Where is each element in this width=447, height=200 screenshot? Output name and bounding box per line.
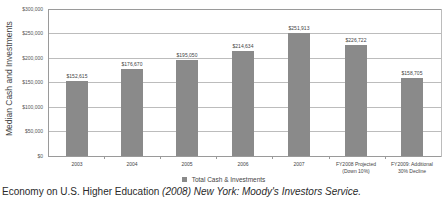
y-tick-300000: $300,000 <box>0 6 43 12</box>
bar-value-label: $176,670 <box>102 61 162 67</box>
bar-value-label: $226,722 <box>326 37 386 43</box>
bar-value-label: $158,705 <box>382 70 442 76</box>
x-category-label: 2004 <box>102 161 162 168</box>
bar-2003 <box>66 81 88 156</box>
bar-2007 <box>288 33 310 156</box>
bar-value-label: $152,615 <box>47 73 107 79</box>
x-axis <box>48 156 441 157</box>
legend-swatch-icon <box>182 177 187 182</box>
x-category-label: 2006 <box>213 161 273 168</box>
x-tick <box>104 156 105 159</box>
y-tick-0: $0 <box>0 153 43 159</box>
legend-label: Total Cash & Investments <box>192 176 266 183</box>
x-category-label: 2003 <box>47 161 107 168</box>
y-tick-150000: $150,000 <box>0 79 43 85</box>
y-tick-100000: $100,000 <box>0 104 43 110</box>
y-axis <box>48 9 49 157</box>
bar-fy2008-projected <box>345 45 367 156</box>
bar-value-label: $214,634 <box>213 43 273 49</box>
x-tick <box>216 156 217 159</box>
y-tick-200000: $200,000 <box>0 55 43 61</box>
bar-value-label: $251,913 <box>269 25 329 31</box>
bar-fy2009-decline <box>401 78 423 156</box>
x-tick <box>385 156 386 159</box>
gridline <box>48 33 441 34</box>
chart-legend: Total Cash & Investments <box>0 176 447 183</box>
plot-border-right <box>441 9 442 157</box>
gridline <box>48 9 441 10</box>
x-category-label: FY2009: Additional30% Decline <box>382 161 442 174</box>
bar-2006 <box>232 51 254 156</box>
y-tick-50000: $50,000 <box>0 128 43 134</box>
bar-2005 <box>176 60 198 156</box>
y-tick-250000: $250,000 <box>0 30 43 36</box>
x-tick <box>160 156 161 159</box>
x-tick <box>272 156 273 159</box>
x-tick <box>329 156 330 159</box>
x-category-label: 2005 <box>157 161 217 168</box>
x-category-label: 2007 <box>269 161 329 168</box>
source-caption: Economy on U.S. Higher Education (2008) … <box>2 186 361 197</box>
bar-2004 <box>121 69 143 156</box>
x-category-label: FY2008 Projected(Down 10%) <box>326 161 386 174</box>
bar-chart: Median Cash and Investments $300,000 $25… <box>0 0 447 175</box>
bar-value-label: $195,050 <box>157 52 217 58</box>
